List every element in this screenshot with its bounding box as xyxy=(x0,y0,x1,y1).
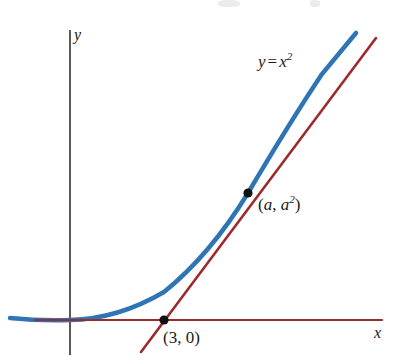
tangent-point-label: (a, a2) xyxy=(258,196,300,213)
tangent-label-a1: a xyxy=(264,195,273,214)
y-axis-label: y xyxy=(74,27,81,43)
curve-equation-label: y=x2 xyxy=(258,53,292,70)
x-axis-label: x xyxy=(374,325,381,341)
tangent-line-figure: y=x2 (a, a2) (3, 0) y x xyxy=(0,0,401,361)
tangent-label-comma: , xyxy=(272,195,281,214)
x-intercept-label: (3, 0) xyxy=(163,329,200,346)
parabola-curve xyxy=(10,33,356,320)
plot-canvas xyxy=(0,0,401,361)
x-intercept-marker xyxy=(159,315,168,324)
tangent-label-close-paren: ) xyxy=(295,195,301,214)
tangent-point-marker xyxy=(243,188,252,197)
tangent-label-a2: a xyxy=(281,195,290,214)
curve-label-equals: = xyxy=(266,52,280,71)
curve-label-y: y xyxy=(258,52,266,71)
curve-label-x: x xyxy=(279,52,287,71)
curve-label-exponent: 2 xyxy=(287,50,293,62)
